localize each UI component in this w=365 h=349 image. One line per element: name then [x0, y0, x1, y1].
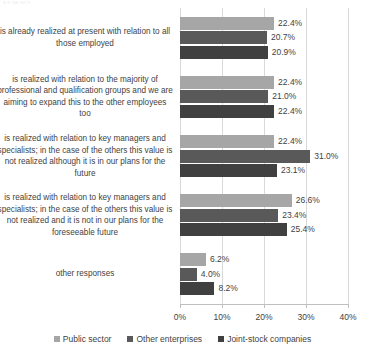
bar-value-label: 26.6% — [296, 195, 320, 206]
bar-value-label: 4.0% — [201, 269, 220, 280]
bar-other-enterprises — [180, 90, 268, 103]
category-label: is already realized at present with rela… — [0, 26, 173, 49]
bar-joint-stock-companies — [180, 282, 214, 295]
x-tick — [306, 305, 307, 308]
bar-other-enterprises — [180, 150, 310, 163]
bar-group: 26.6%23.4%25.4% — [180, 194, 348, 238]
bar-value-label: 8.2% — [218, 283, 237, 294]
bar-value-label: 23.4% — [282, 210, 306, 221]
bar-other-enterprises — [180, 31, 267, 44]
category-label: is realized with relation to the majorit… — [0, 74, 173, 120]
bar-value-label: 22.4% — [278, 18, 302, 29]
legend-label: Joint-stock companies — [227, 334, 311, 344]
legend-label: Public sector — [63, 334, 112, 344]
bar-group: 22.4%21.0%22.4% — [180, 76, 348, 120]
bar-public-sector — [180, 253, 206, 266]
bar-row: 22.4% — [180, 105, 348, 118]
legend-label: Other enterprises — [136, 334, 202, 344]
legend-item-joint-stock-companies[interactable]: Joint-stock companies — [218, 334, 311, 344]
bar-public-sector — [180, 17, 274, 30]
bar-value-label: 23.1% — [281, 165, 305, 176]
x-tick-label: 30% — [297, 312, 314, 322]
x-tick-label: 10% — [213, 312, 230, 322]
bar-value-label: 21.0% — [272, 91, 296, 102]
bar-value-label: 31.0% — [314, 151, 338, 162]
bar-row: 22.4% — [180, 135, 348, 148]
bar-group: 22.4%31.0%23.1% — [180, 135, 348, 179]
bar-row: 22.4% — [180, 17, 348, 30]
x-tick — [264, 305, 265, 308]
legend-swatch — [218, 336, 224, 342]
plot-area: 22.4%20.7%20.9%22.4%21.0%22.4%22.4%31.0%… — [180, 8, 348, 304]
bar-row: 8.2% — [180, 282, 348, 295]
bar-other-enterprises — [180, 209, 278, 222]
bar-row: 20.9% — [180, 46, 348, 59]
bar-value-label: 6.2% — [210, 254, 229, 265]
x-tick-label: 20% — [255, 312, 272, 322]
bar-public-sector — [180, 194, 292, 207]
bar-chart: a n na nn n 22.4%20.7%20.9%22.4%21.0%22.… — [0, 0, 365, 349]
bar-value-label: 20.7% — [271, 32, 295, 43]
bar-joint-stock-companies — [180, 223, 287, 236]
category-label: is realized with relation to key manager… — [0, 192, 173, 238]
bar-row: 23.1% — [180, 164, 348, 177]
category-label: other responses — [0, 268, 173, 280]
bar-row: 31.0% — [180, 150, 348, 163]
bar-row: 23.4% — [180, 209, 348, 222]
bar-other-enterprises — [180, 268, 197, 281]
x-tick — [180, 305, 181, 308]
clipped-header-artifact: a n na nn n — [3, 0, 30, 5]
gridline — [348, 8, 349, 304]
bar-value-label: 20.9% — [272, 47, 296, 58]
legend-item-public-sector[interactable]: Public sector — [54, 334, 112, 344]
bar-joint-stock-companies — [180, 164, 277, 177]
legend-swatch — [127, 336, 133, 342]
bar-public-sector — [180, 135, 274, 148]
legend-item-other-enterprises[interactable]: Other enterprises — [127, 334, 202, 344]
x-tick-label: 0% — [174, 312, 186, 322]
bar-group: 22.4%20.7%20.9% — [180, 17, 348, 61]
bar-joint-stock-companies — [180, 46, 268, 59]
chart-legend: Public sectorOther enterprisesJoint-stoc… — [0, 334, 365, 344]
category-label: is realized with relation to key manager… — [0, 133, 173, 179]
x-tick — [222, 305, 223, 308]
x-tick-label: 40% — [339, 312, 356, 322]
legend-swatch — [54, 336, 60, 342]
bar-row: 4.0% — [180, 268, 348, 281]
bar-row: 21.0% — [180, 90, 348, 103]
bar-row: 6.2% — [180, 253, 348, 266]
bar-row: 22.4% — [180, 76, 348, 89]
bar-row: 25.4% — [180, 223, 348, 236]
bar-joint-stock-companies — [180, 105, 274, 118]
bar-public-sector — [180, 76, 274, 89]
bar-row: 26.6% — [180, 194, 348, 207]
x-tick — [348, 305, 349, 308]
bar-value-label: 22.4% — [278, 77, 302, 88]
bar-value-label: 22.4% — [278, 136, 302, 147]
bar-value-label: 25.4% — [291, 224, 315, 235]
bar-value-label: 22.4% — [278, 106, 302, 117]
bar-row: 20.7% — [180, 31, 348, 44]
bar-group: 6.2%4.0%8.2% — [180, 253, 348, 297]
